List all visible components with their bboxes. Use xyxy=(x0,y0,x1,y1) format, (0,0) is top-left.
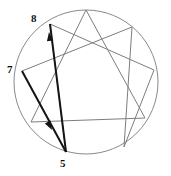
vertex-label-7: 7 xyxy=(7,64,13,75)
vertex-label-8: 8 xyxy=(31,13,37,24)
enneagram-canvas xyxy=(0,0,171,176)
enneagram-hexad-142857 xyxy=(22,24,154,152)
arrowhead-icon-5 xyxy=(45,121,52,130)
enneagram-triangle-963 xyxy=(31,10,145,122)
arrow-line-8-to-5 xyxy=(50,24,66,152)
enneagram-circle xyxy=(14,10,158,154)
arrow-line-7-to-5 xyxy=(22,71,66,152)
enneagram-diagram: 8 7 5 xyxy=(0,0,171,176)
vertex-label-5: 5 xyxy=(60,158,66,169)
